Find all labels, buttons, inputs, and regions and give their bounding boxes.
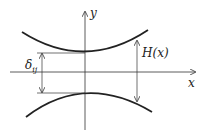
height-label: H(x)	[141, 46, 169, 60]
y-axis-label: y	[89, 6, 97, 20]
lower-curve	[26, 93, 152, 117]
x-axis-label: x	[188, 76, 195, 90]
diagram-canvas: y x H(x) δij	[0, 0, 204, 137]
delta-symbol: δ	[25, 58, 32, 72]
delta-label: δij	[25, 58, 38, 74]
delta-subscript: ij	[32, 65, 38, 74]
